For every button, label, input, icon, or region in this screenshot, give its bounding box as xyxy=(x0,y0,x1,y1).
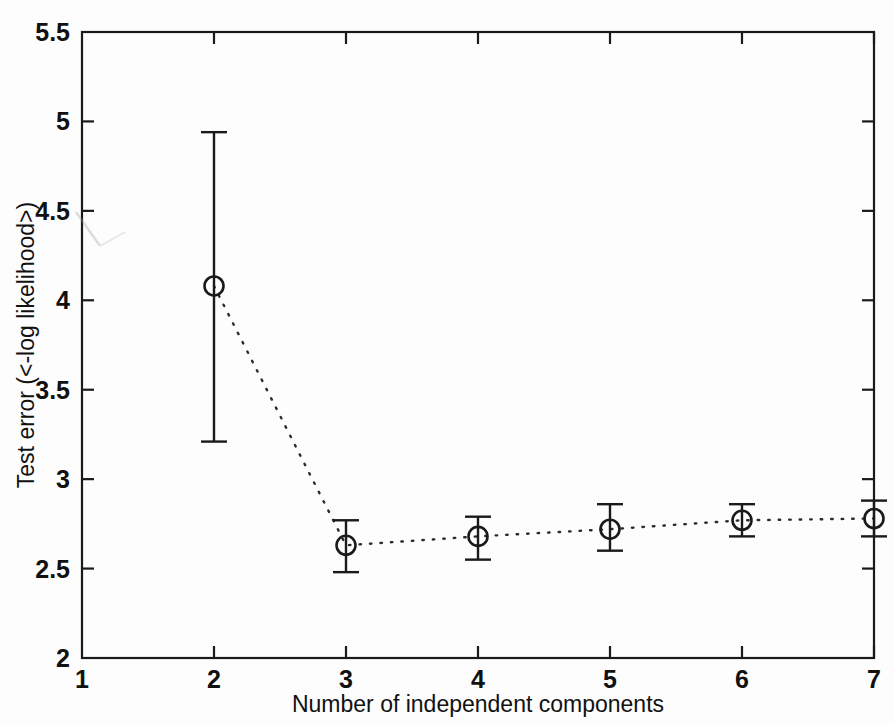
data-markers-group xyxy=(205,276,884,554)
error-bars-group xyxy=(201,132,887,572)
series-dotted-line xyxy=(214,286,874,545)
x-axis-ticks: 1234567 xyxy=(75,32,881,693)
y-tick-label: 2.5 xyxy=(35,555,70,583)
y-tick-label: 2 xyxy=(56,644,70,672)
x-tick-label: 1 xyxy=(75,665,89,693)
y-tick-label: 5.5 xyxy=(35,18,70,46)
y-axis-ticks: 22.533.544.555.5 xyxy=(35,18,874,672)
scan-artifact xyxy=(76,212,125,246)
y-tick-label: 4.5 xyxy=(35,197,70,225)
y-tick-label: 3.5 xyxy=(35,376,70,404)
x-tick-label: 7 xyxy=(867,665,881,693)
y-tick-label: 4 xyxy=(56,286,70,314)
axes-border xyxy=(82,32,874,658)
x-tick-label: 4 xyxy=(471,665,485,693)
chart-figure: 22.533.544.555.5 1234567 Number of indep… xyxy=(0,0,894,725)
x-tick-label: 6 xyxy=(735,665,749,693)
y-axis-label: Test error (<-log likelihood>) xyxy=(13,202,39,488)
x-tick-label: 5 xyxy=(603,665,617,693)
y-tick-label: 3 xyxy=(56,465,70,493)
x-tick-label: 2 xyxy=(207,665,221,693)
plot-frame xyxy=(82,32,874,658)
series-path xyxy=(214,286,874,545)
x-axis-label: Number of independent components xyxy=(292,691,664,717)
y-tick-label: 5 xyxy=(56,107,70,135)
error-bar-line-chart: 22.533.544.555.5 1234567 Number of indep… xyxy=(0,0,894,725)
x-tick-label: 3 xyxy=(339,665,353,693)
